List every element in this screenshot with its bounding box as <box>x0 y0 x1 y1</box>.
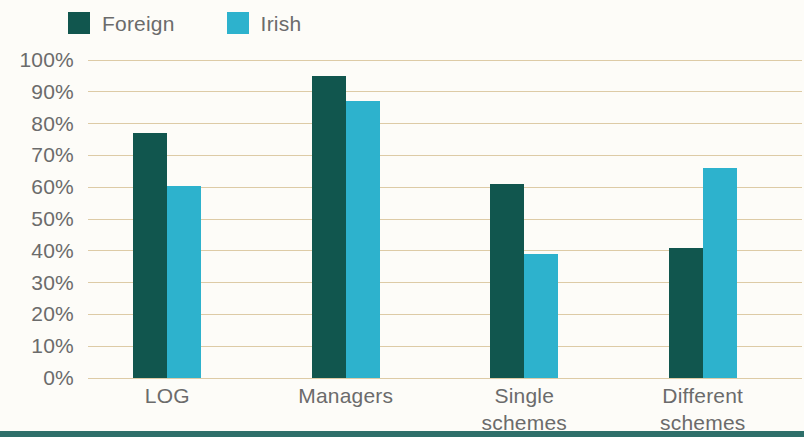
gridline-90pct <box>88 91 802 92</box>
legend-swatch-foreign-icon <box>68 12 90 34</box>
y-axis-tick-label: 60% <box>31 175 74 199</box>
legend-item-irish: Irish <box>227 12 302 34</box>
bar-foreign-0 <box>133 133 167 378</box>
y-axis-tick-label: 30% <box>31 271 74 295</box>
y-axis-tick-label: 70% <box>31 143 74 167</box>
gridline-70pct <box>88 155 802 156</box>
x-axis: LOGManagersSingle schemesDifferent schem… <box>88 382 802 437</box>
chart-legend: Foreign Irish <box>68 8 301 38</box>
y-axis-tick-label: 50% <box>31 207 74 231</box>
x-axis-category-label: Single schemes <box>482 382 567 436</box>
bar-foreign-3 <box>669 248 703 378</box>
plot-area <box>88 60 802 378</box>
legend-label-irish: Irish <box>261 13 302 34</box>
y-axis-tick-label: 40% <box>31 239 74 263</box>
y-axis-tick-label: 100% <box>19 48 74 72</box>
x-axis-category-label: LOG <box>145 382 190 409</box>
legend-swatch-irish-icon <box>227 12 249 34</box>
bar-irish-2 <box>524 254 558 378</box>
gridline-80pct <box>88 123 802 124</box>
bar-chart: Foreign Irish 0%10%20%30%40%50%60%70%80%… <box>0 0 804 437</box>
y-axis-tick-label: 90% <box>31 80 74 104</box>
x-axis-category-label: Different schemes <box>660 382 745 436</box>
x-axis-category-label: Managers <box>298 382 393 409</box>
legend-label-foreign: Foreign <box>102 13 175 34</box>
bar-irish-0 <box>167 186 201 378</box>
y-axis: 0%10%20%30%40%50%60%70%80%90%100% <box>0 60 82 378</box>
bottom-edge-strip <box>0 431 804 437</box>
y-axis-tick-label: 80% <box>31 112 74 136</box>
bar-irish-1 <box>346 101 380 378</box>
bar-foreign-1 <box>312 76 346 378</box>
gridline-100pct <box>88 60 802 61</box>
y-axis-tick-label: 20% <box>31 302 74 326</box>
y-axis-tick-label: 0% <box>43 366 74 390</box>
bar-irish-3 <box>703 168 737 378</box>
legend-item-foreign: Foreign <box>68 12 175 34</box>
bar-foreign-2 <box>490 184 524 378</box>
y-axis-tick-label: 10% <box>31 334 74 358</box>
